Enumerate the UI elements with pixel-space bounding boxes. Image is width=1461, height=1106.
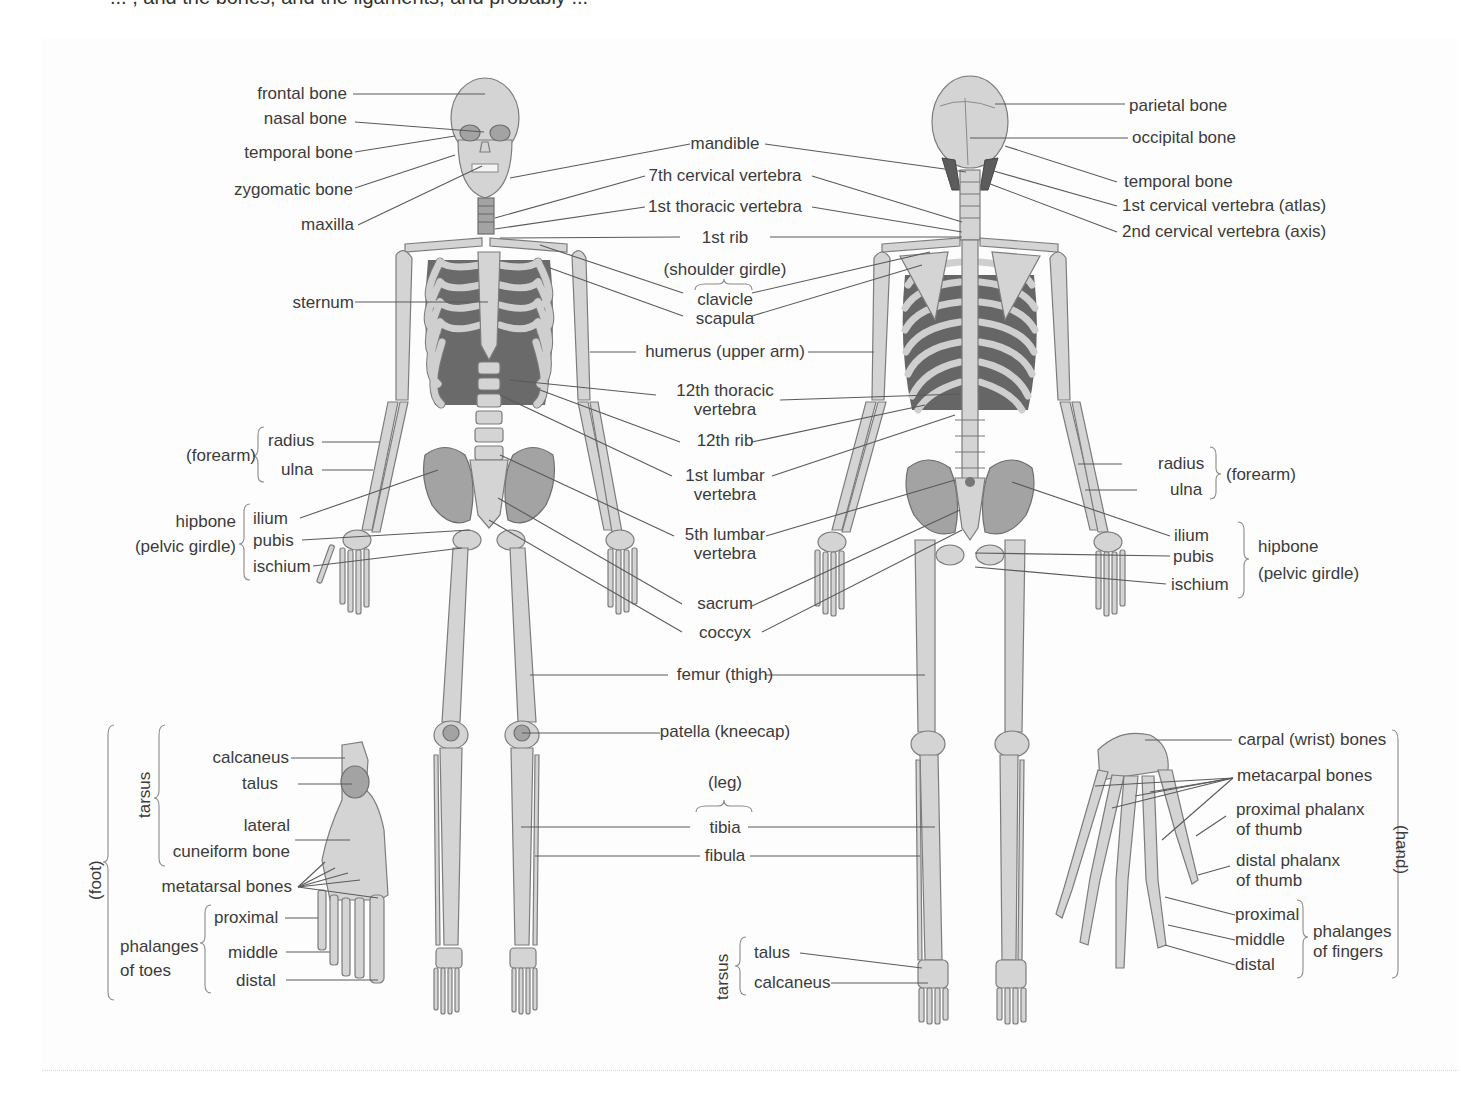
label-5th-lumbar-vertebra-line1: 5th lumbar xyxy=(650,525,800,545)
label-proximal-toe: proximal xyxy=(214,908,278,928)
label-tarsus-foot: tarsus xyxy=(135,772,155,818)
label-1st-lumbar-vertebra-line1: 1st lumbar xyxy=(650,466,800,486)
label-sternum: sternum xyxy=(293,293,354,313)
label-phalanges-fingers-line2: of fingers xyxy=(1313,942,1383,962)
label-phalanges-fingers-line1: phalanges xyxy=(1313,922,1391,942)
label-1st-cervical-vertebra-atlas: 1st cervical vertebra (atlas) xyxy=(1122,196,1326,216)
label-foot-group: (foot) xyxy=(86,860,106,900)
label-radius-front: radius xyxy=(268,431,314,451)
label-shoulder-girdle: (shoulder girdle) xyxy=(640,260,810,280)
label-hand-group: (hand) xyxy=(1391,825,1411,874)
label-radius-back: radius xyxy=(1158,454,1204,474)
label-hipbone-front-2: (pelvic girdle) xyxy=(135,537,236,557)
label-12th-thoracic-vertebra-line1: 12th thoracic xyxy=(640,381,810,401)
label-nasal-bone: nasal bone xyxy=(264,109,347,129)
label-hipbone-front-1: hipbone xyxy=(175,512,236,532)
label-temporal-bone-front: temporal bone xyxy=(244,143,353,163)
label-ilium-back: ilium xyxy=(1174,526,1209,546)
label-parietal-bone: parietal bone xyxy=(1129,96,1227,116)
label-femur: femur (thigh) xyxy=(640,665,810,685)
back-skeleton xyxy=(815,76,1125,1024)
label-temporal-bone-back: temporal bone xyxy=(1124,172,1233,192)
label-pubis-back: pubis xyxy=(1173,547,1214,567)
label-5th-lumbar-vertebra-line2: vertebra xyxy=(650,544,800,564)
label-patella: patella (kneecap) xyxy=(640,722,810,742)
label-proximal-finger: proximal xyxy=(1235,905,1299,925)
label-scapula: scapula xyxy=(660,309,790,329)
label-talus-ankle: talus xyxy=(754,943,790,963)
label-carpal-bones: carpal (wrist) bones xyxy=(1238,730,1386,750)
label-phalanges-toes-line1: phalanges xyxy=(120,937,198,957)
label-tarsus-ankle: tarsus xyxy=(713,954,733,1000)
label-distal-phalanx-thumb-line2: of thumb xyxy=(1236,871,1302,891)
label-frontal-bone: frontal bone xyxy=(257,84,347,104)
label-occipital-bone: occipital bone xyxy=(1132,128,1236,148)
label-2nd-cervical-vertebra-axis: 2nd cervical vertebra (axis) xyxy=(1122,222,1326,242)
label-distal-finger: distal xyxy=(1235,955,1275,975)
label-1st-lumbar-vertebra-line2: vertebra xyxy=(650,485,800,505)
label-hipbone-back-2: (pelvic girdle) xyxy=(1258,564,1359,584)
label-ischium-front: ischium xyxy=(253,557,311,577)
label-ulna-back: ulna xyxy=(1170,480,1202,500)
label-middle-finger: middle xyxy=(1235,930,1285,950)
label-coccyx: coccyx xyxy=(660,623,790,643)
label-maxilla: maxilla xyxy=(301,215,354,235)
label-fibula: fibula xyxy=(660,846,790,866)
label-clavicle: clavicle xyxy=(660,290,790,310)
label-mandible: mandible xyxy=(640,134,810,154)
label-zygomatic-bone: zygomatic bone xyxy=(234,180,353,200)
foot-inset-illustration xyxy=(318,742,388,983)
label-metacarpal-bones: metacarpal bones xyxy=(1237,766,1372,786)
label-talus-foot: talus xyxy=(242,774,278,794)
label-leg-group: (leg) xyxy=(660,773,790,793)
diagram-page: ... , and the bones, and the ligaments, … xyxy=(0,0,1461,1106)
label-forearm-group-front: (forearm) xyxy=(186,446,256,466)
label-hipbone-back-1: hipbone xyxy=(1258,537,1319,557)
label-metatarsal-bones: metatarsal bones xyxy=(162,877,292,897)
label-1st-rib: 1st rib xyxy=(660,228,790,248)
label-lateral-cuneiform-line1: lateral xyxy=(244,816,290,836)
label-calcaneus-foot: calcaneus xyxy=(212,748,289,768)
label-phalanges-toes-line2: of toes xyxy=(120,961,171,981)
label-humerus: humerus (upper arm) xyxy=(630,342,820,362)
label-middle-toe: middle xyxy=(228,943,278,963)
label-ulna-front: ulna xyxy=(281,460,313,480)
label-tibia: tibia xyxy=(660,818,790,838)
label-1st-thoracic-vertebra: 1st thoracic vertebra xyxy=(625,197,825,217)
label-proximal-phalanx-thumb-line1: proximal phalanx xyxy=(1236,800,1365,820)
hand-inset-illustration xyxy=(1056,733,1198,968)
label-distal-toe: distal xyxy=(236,971,276,991)
label-12th-thoracic-vertebra-line2: vertebra xyxy=(640,400,810,420)
label-12th-rib: 12th rib xyxy=(660,431,790,451)
label-pubis-front: pubis xyxy=(253,531,294,551)
label-sacrum: sacrum xyxy=(660,594,790,614)
label-forearm-group-back: (forearm) xyxy=(1226,465,1296,485)
label-proximal-phalanx-thumb-line2: of thumb xyxy=(1236,820,1302,840)
label-ilium-front: ilium xyxy=(253,509,288,529)
label-calcaneus-ankle: calcaneus xyxy=(754,973,831,993)
label-lateral-cuneiform-line2: cuneiform bone xyxy=(173,842,290,862)
label-7th-cervical-vertebra: 7th cervical vertebra xyxy=(625,166,825,186)
label-distal-phalanx-thumb-line1: distal phalanx xyxy=(1236,851,1340,871)
label-ischium-back: ischium xyxy=(1171,575,1229,595)
